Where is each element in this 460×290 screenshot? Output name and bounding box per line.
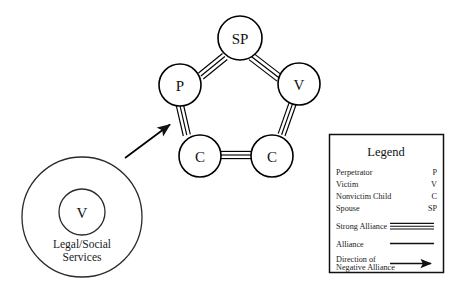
link-sp-v	[249, 53, 282, 81]
negative-alliance-arrow	[125, 125, 170, 159]
node-p: P	[159, 64, 201, 106]
link-c-right-c-left	[221, 151, 251, 158]
legend-term-nonvictim-child: Nonvictim Child	[336, 192, 391, 201]
node-c-right: C	[251, 135, 293, 177]
node-c-right-label: C	[267, 149, 277, 165]
legend-label-negative-alliance-line2: Negative Alliance	[336, 263, 395, 272]
legend-abbr-spouse: SP	[428, 204, 438, 213]
link-c-left-p	[176, 104, 190, 136]
legal-social-services-group: V Legal/Social Services	[22, 157, 142, 277]
legend-abbr-nonvictim-child: C	[432, 192, 438, 201]
node-p-label: P	[176, 78, 184, 94]
legend-term-perpetrator: Perpetrator	[336, 168, 373, 177]
inner-victim-label: V	[77, 205, 88, 221]
node-sp: SP	[218, 16, 262, 60]
node-v-label: V	[294, 77, 305, 93]
node-c-left-label: C	[195, 149, 205, 165]
link-v-c-right	[278, 102, 296, 136]
legend-abbr-perpetrator: P	[432, 168, 437, 177]
legend-abbr-victim: V	[431, 180, 437, 189]
legend-term-victim: Victim	[336, 180, 359, 189]
legend-term-spouse: Spouse	[336, 204, 360, 213]
legend-panel: Legend Perpetrator P Victim V Nonvictim …	[330, 135, 444, 273]
services-caption-line2: Services	[63, 251, 102, 263]
legend-label-alliance: Alliance	[336, 240, 364, 249]
link-p-sp	[199, 54, 228, 80]
services-caption-line1: Legal/Social	[53, 238, 111, 251]
legend-title: Legend	[367, 145, 405, 159]
node-v: V	[278, 63, 320, 105]
diagram-canvas: SP P V C C V Legal/Social Services	[0, 0, 460, 290]
legend-label-strong-alliance: Strong Alliance	[336, 222, 388, 231]
diagram-svg: SP P V C C V Legal/Social Services	[0, 0, 460, 290]
node-c-left: C	[179, 135, 221, 177]
node-sp-label: SP	[232, 31, 249, 47]
